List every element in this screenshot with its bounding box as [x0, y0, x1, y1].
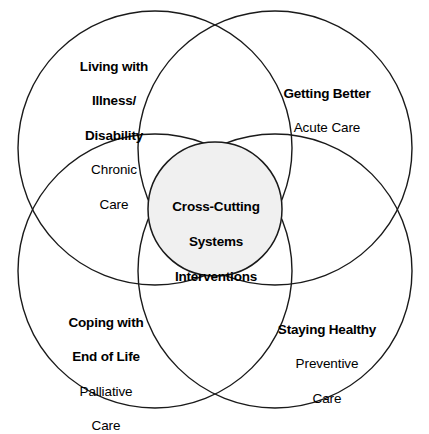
label-getting-better-title-line-1: Getting Better	[254, 86, 400, 102]
label-staying-healthy-title-line-1: Staying Healthy	[252, 322, 402, 338]
label-coping-end-of-life: Coping with End of Life Palliative Care	[38, 296, 174, 434]
label-coping-end-of-life-subtitle-line-1: Palliative	[38, 384, 174, 400]
label-center-title-line-1: Cross-Cutting	[148, 199, 284, 215]
label-living-with-illness-title-line-2: Illness/	[48, 93, 180, 109]
label-getting-better: Getting Better Acute Care	[254, 67, 400, 155]
label-coping-end-of-life-title-line-1: Coping with	[38, 315, 174, 331]
label-coping-end-of-life-title-line-2: End of Life	[38, 349, 174, 365]
label-cross-cutting-systems-interventions: Cross-Cutting Systems Interventions	[148, 180, 284, 303]
label-coping-end-of-life-subtitle-line-2: Care	[38, 418, 174, 434]
label-getting-better-subtitle-line-1: Acute Care	[254, 120, 400, 136]
label-living-with-illness-subtitle-line-1: Chronic	[48, 162, 180, 178]
label-center-title-line-3: Interventions	[148, 269, 284, 285]
label-center-title-line-2: Systems	[148, 234, 284, 250]
label-staying-healthy-subtitle-line-1: Preventive	[252, 356, 402, 372]
label-staying-healthy-subtitle-line-2: Care	[252, 391, 402, 407]
label-living-with-illness-title-line-1: Living with	[48, 59, 180, 75]
label-staying-healthy: Staying Healthy Preventive Care	[252, 303, 402, 425]
label-living-with-illness-title-line-3: Disability	[48, 128, 180, 144]
